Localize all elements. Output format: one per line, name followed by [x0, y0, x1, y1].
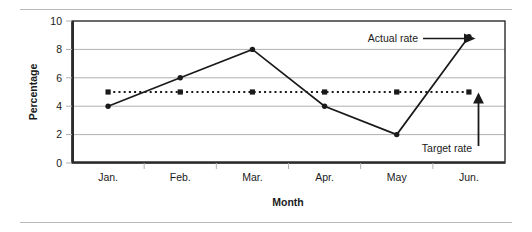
x-tick-label: May — [387, 171, 408, 183]
x-tick-label: Feb. — [170, 171, 191, 183]
y-tick-label: 2 — [56, 128, 62, 140]
x-tick-label: Apr. — [315, 171, 334, 183]
chart-figure: 0246810 Jan.Feb.Mar.Apr.MayJun. Actual r… — [0, 0, 532, 232]
y-tick-label: 8 — [56, 43, 62, 55]
data-point — [466, 89, 471, 94]
x-axis-group: Jan.Feb.Mar.Apr.MayJun. — [98, 163, 479, 183]
y-axis-title: Percentage — [27, 64, 39, 121]
data-point — [394, 132, 399, 137]
actual-rate-annotation-label: Actual rate — [368, 32, 418, 44]
data-point — [178, 89, 183, 94]
y-tick-label: 6 — [56, 72, 62, 84]
data-point — [394, 89, 399, 94]
x-tick-label: Jan. — [98, 171, 118, 183]
data-point — [105, 89, 110, 94]
x-tick-label: Mar. — [242, 171, 262, 183]
y-tick-label: 4 — [56, 100, 62, 112]
y-axis-group: 0246810 — [50, 15, 72, 169]
y-tick-label: 0 — [56, 157, 62, 169]
line-chart: 0246810 Jan.Feb.Mar.Apr.MayJun. Actual r… — [0, 0, 532, 232]
data-point — [322, 104, 327, 109]
data-point — [250, 47, 255, 52]
data-point — [322, 89, 327, 94]
x-tick-label: Jun. — [459, 171, 479, 183]
y-tick-label: 10 — [50, 15, 62, 27]
target-rate-annotation-label: Target rate — [422, 142, 472, 154]
data-point — [105, 104, 110, 109]
data-point — [250, 89, 255, 94]
data-point — [178, 75, 183, 80]
x-axis-title: Month — [272, 196, 304, 208]
